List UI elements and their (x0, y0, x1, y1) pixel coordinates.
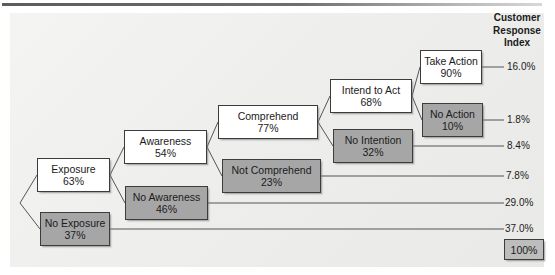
node-comprehend[interactable]: Comprehend 77% (218, 105, 318, 139)
node-awareness-label: Awareness (140, 135, 192, 148)
node-awareness-value: 54% (155, 147, 176, 160)
node-no-exposure-value: 37% (64, 229, 85, 242)
cri-value-take-action: 16.0% (507, 61, 555, 72)
node-intend-to-act[interactable]: Intend to Act 68% (330, 79, 412, 113)
node-awareness[interactable]: Awareness 54% (124, 130, 207, 164)
cri-title-line-2: Response (484, 25, 550, 38)
link-comprehend-intend (318, 96, 330, 122)
node-exposure-label: Exposure (51, 163, 95, 176)
node-no-intention[interactable]: No Intention 32% (333, 129, 413, 163)
cri-title: Customer Response Index (484, 12, 550, 50)
diagram-canvas: Exposure 63% No Exposure 37% Awareness 5… (0, 0, 555, 275)
node-no-action-value: 10% (442, 120, 463, 133)
cri-value-no-exposure: 37.0% (505, 223, 555, 234)
node-comprehend-label: Comprehend (238, 110, 299, 123)
cri-value-not-comprehend: 7.8% (506, 170, 555, 181)
node-no-awareness[interactable]: No Awareness 46% (125, 186, 208, 220)
link-awareness-not-comprehend (207, 147, 222, 176)
link-root-exposure (20, 175, 37, 203)
cri-title-line-1: Customer (484, 12, 550, 25)
link-intend-take-action (412, 67, 420, 96)
link-comprehend-no-intention (318, 122, 333, 146)
cri-value-no-action: 1.8% (507, 114, 555, 125)
node-no-exposure-label: No Exposure (45, 217, 106, 230)
node-comprehend-value: 77% (257, 122, 278, 135)
node-not-comprehend-label: Not Comprehend (232, 164, 312, 177)
node-take-action[interactable]: Take Action 90% (420, 50, 482, 84)
cri-total-box: 100% (504, 239, 544, 260)
node-intend-to-act-label: Intend to Act (342, 84, 400, 97)
cri-title-line-3: Index (484, 37, 550, 50)
cri-value-no-awareness: 29.0% (505, 197, 555, 208)
node-take-action-value: 90% (440, 67, 461, 80)
link-awareness-comprehend (207, 122, 218, 147)
node-not-comprehend[interactable]: Not Comprehend 23% (222, 159, 321, 193)
cri-value-no-intention: 8.4% (507, 140, 555, 151)
node-no-exposure[interactable]: No Exposure 37% (40, 212, 110, 246)
cri-total-label: 100% (511, 244, 538, 256)
node-not-comprehend-value: 23% (261, 176, 282, 189)
node-no-intention-value: 32% (362, 146, 383, 159)
node-exposure-value: 63% (63, 175, 84, 188)
node-take-action-label: Take Action (424, 55, 478, 68)
node-no-action[interactable]: No Action 10% (422, 103, 483, 137)
node-no-awareness-label: No Awareness (133, 191, 201, 204)
node-no-intention-label: No Intention (345, 134, 402, 147)
link-root-no-exposure (20, 203, 40, 229)
link-intend-no-action (412, 96, 422, 120)
node-no-action-label: No Action (430, 108, 475, 121)
node-exposure[interactable]: Exposure 63% (37, 158, 110, 192)
link-exposure-awareness (110, 147, 124, 175)
link-exposure-no-awareness (110, 175, 125, 203)
node-no-awareness-value: 46% (156, 203, 177, 216)
node-intend-to-act-value: 68% (360, 96, 381, 109)
